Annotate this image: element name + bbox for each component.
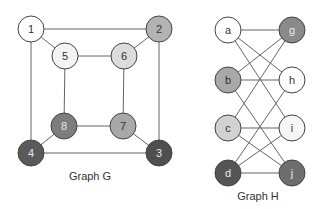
node-c: c <box>215 115 241 141</box>
node-label: d <box>225 167 231 179</box>
graph-h-title: Graph H <box>237 190 279 202</box>
node-a: a <box>215 17 241 43</box>
node-label: h <box>289 74 295 86</box>
node-h: h <box>279 67 305 93</box>
node-label: j <box>290 167 293 179</box>
node-4: 4 <box>18 140 44 166</box>
node-label: 4 <box>28 147 34 159</box>
node-7: 7 <box>110 113 136 139</box>
node-label: 2 <box>156 23 162 35</box>
node-label: g <box>289 24 295 36</box>
node-label: 7 <box>120 120 126 132</box>
node-label: 5 <box>62 50 68 62</box>
node-label: b <box>225 74 231 86</box>
node-2: 2 <box>146 16 172 42</box>
node-label: 6 <box>121 50 127 62</box>
node-d: d <box>215 160 241 186</box>
node-i: i <box>279 115 305 141</box>
node-1: 1 <box>18 16 44 42</box>
node-6: 6 <box>111 43 137 69</box>
node-g: g <box>279 17 305 43</box>
node-label: c <box>225 122 231 134</box>
node-8: 8 <box>51 113 77 139</box>
node-label: 8 <box>61 120 67 132</box>
node-5: 5 <box>52 43 78 69</box>
node-j: j <box>279 160 305 186</box>
nodes-layer: 12568743agbhcidj <box>18 16 305 186</box>
node-label: i <box>291 122 293 134</box>
node-b: b <box>215 67 241 93</box>
graph-g-title: Graph G <box>69 170 111 182</box>
node-label: a <box>225 24 232 36</box>
graph-diagram-canvas: 12568743agbhcidj Graph G Graph H <box>0 0 324 209</box>
node-label: 3 <box>156 147 162 159</box>
node-label: 1 <box>28 23 34 35</box>
node-3: 3 <box>146 140 172 166</box>
